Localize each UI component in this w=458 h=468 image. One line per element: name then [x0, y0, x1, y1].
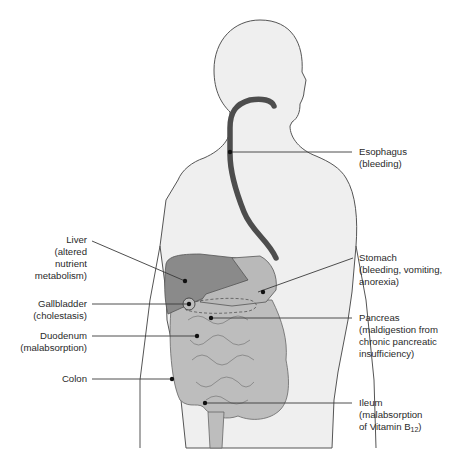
label-duodenum: Duodenum (malabsorption) — [20, 330, 87, 354]
label-gallbladder: Gallbladder (cholestasis) — [33, 298, 87, 322]
label-colon: Colon — [62, 373, 87, 385]
esophagus-name: Esophagus — [359, 146, 407, 158]
colon-name: Colon — [62, 373, 87, 385]
label-esophagus: Esophagus (bleeding) — [359, 146, 407, 170]
ileum-detail-1: (malabsorption — [359, 409, 422, 421]
liver-detail-3: metabolism) — [35, 270, 87, 282]
ileum-detail-2: of Vitamin B — [359, 421, 411, 432]
left-arm-line — [140, 246, 160, 448]
ileum-suffix: ) — [418, 421, 421, 432]
liver-name: Liver — [35, 234, 87, 246]
duodenum-detail: (malabsorption) — [20, 342, 87, 354]
label-stomach: Stomach (bleeding, vomiting, anorexia) — [359, 252, 442, 288]
pancreas-detail-3: insufficiency) — [359, 348, 438, 360]
pancreas-detail-1: (maldigestion from — [359, 324, 438, 336]
pancreas-name: Pancreas — [359, 312, 438, 324]
ileum-detail-2-line: of Vitamin B12) — [359, 421, 422, 433]
stomach-detail-2: anorexia) — [359, 276, 442, 288]
label-liver: Liver (altered nutrient metabolism) — [35, 234, 87, 282]
label-pancreas: Pancreas (maldigestion from chronic panc… — [359, 312, 438, 360]
gallbladder-detail: (cholestasis) — [33, 310, 87, 322]
rectum — [208, 412, 224, 448]
esophagus-detail: (bleeding) — [359, 158, 407, 170]
label-ileum: Ileum (malabsorption of Vitamin B12) — [359, 397, 422, 433]
duodenum-name: Duodenum — [20, 330, 87, 342]
stomach-detail-1: (bleeding, vomiting, — [359, 264, 442, 276]
liver-detail-1: (altered — [35, 246, 87, 258]
gallbladder-name: Gallbladder — [33, 298, 87, 310]
pancreas-detail-2: chronic pancreatic — [359, 336, 438, 348]
ileum-name: Ileum — [359, 397, 422, 409]
stomach-name: Stomach — [359, 252, 442, 264]
liver-detail-2: nutrient — [35, 258, 87, 270]
